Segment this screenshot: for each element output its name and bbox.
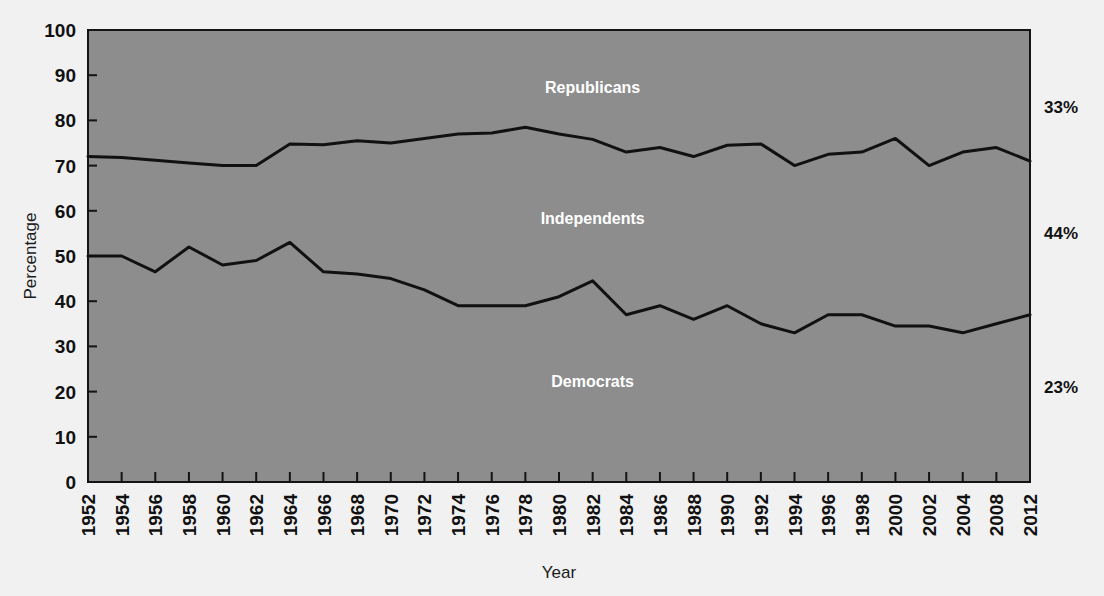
x-axis-tick-label: 1994 [785, 494, 806, 537]
x-axis-tick-label: 1958 [179, 494, 200, 536]
x-axis-tick-label: 2004 [953, 494, 974, 537]
y-axis-tick-label: 40 [55, 291, 76, 312]
chart-container: 1009080706050403020100 19521954195619581… [0, 0, 1104, 596]
party-identification-line-chart: 1009080706050403020100 19521954195619581… [0, 0, 1104, 596]
y-axis-tick-label: 10 [55, 427, 76, 448]
plot-area-background [88, 30, 1030, 482]
y-axis-tick-label: 50 [55, 246, 76, 267]
x-axis-tick-label: 2002 [919, 494, 940, 536]
x-axis-tick-label: 1984 [616, 494, 637, 537]
x-axis-tick-label: 1986 [650, 494, 671, 536]
right-percentage-label: 33% [1044, 98, 1078, 117]
x-axis-tick-label: 1978 [515, 494, 536, 536]
x-axis-tick-label: 1988 [684, 494, 705, 536]
x-axis-tick-label: 2012 [1020, 494, 1041, 536]
y-axis-tick-label: 20 [55, 382, 76, 403]
x-axis-tick-label: 1990 [717, 494, 738, 536]
x-axis-tick-label: 1952 [78, 494, 99, 536]
y-axis-tick-label: 70 [55, 156, 76, 177]
band-label-democrats: Democrats [551, 373, 634, 390]
x-axis-tick-label: 1964 [280, 494, 301, 537]
x-axis-tick-label: 2008 [986, 494, 1007, 536]
y-axis-tick-label: 80 [55, 110, 76, 131]
x-axis-tick-label: 1954 [112, 494, 133, 537]
x-axis-title: Year [542, 563, 577, 582]
right-percentage-label: 44% [1044, 224, 1078, 243]
y-axis-tick-label: 0 [65, 472, 76, 493]
x-axis-tick-label: 1996 [818, 494, 839, 536]
x-axis-tick-label: 2000 [885, 494, 906, 536]
band-label-republicans: Republicans [545, 79, 640, 96]
x-axis-tick-label: 1972 [414, 494, 435, 536]
y-axis-tick-label: 100 [44, 20, 76, 41]
right-percentage-label: 23% [1044, 378, 1078, 397]
x-axis-tick-label: 1960 [213, 494, 234, 536]
x-axis-tick-label: 1980 [549, 494, 570, 536]
x-axis-tick-label: 1970 [381, 494, 402, 536]
x-axis-tick-labels: 1952195419561958196019621964196619681970… [78, 494, 1041, 537]
band-label-independents: Independents [541, 210, 645, 227]
x-axis-tick-label: 1992 [751, 494, 772, 536]
y-axis-tick-label: 90 [55, 65, 76, 86]
x-axis-tick-label: 1956 [145, 494, 166, 536]
x-axis-tick-label: 1976 [482, 494, 503, 536]
x-axis-tick-label: 1982 [583, 494, 604, 536]
x-axis-tick-label: 1966 [314, 494, 335, 536]
y-axis-tick-label: 60 [55, 201, 76, 222]
x-axis-tick-label: 1962 [246, 494, 267, 536]
y-axis-title: Percentage [21, 213, 40, 300]
x-axis-tick-label: 1968 [347, 494, 368, 536]
y-axis-tick-label: 30 [55, 336, 76, 357]
x-axis-tick-label: 1998 [852, 494, 873, 536]
x-axis-tick-label: 1974 [448, 494, 469, 537]
